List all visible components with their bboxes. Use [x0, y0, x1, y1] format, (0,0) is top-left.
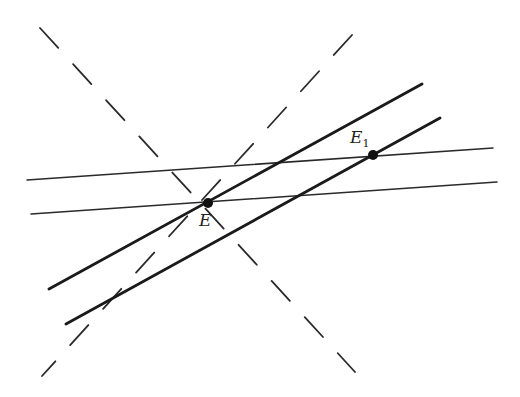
dashed-line-ascending: [42, 35, 352, 376]
point-e1: [368, 150, 378, 160]
thin-line-upper: [27, 148, 493, 180]
label-e-text: E: [199, 210, 211, 230]
point-e: [203, 198, 213, 208]
thick-line-upper: [49, 84, 422, 289]
thick-line-lower: [66, 118, 440, 324]
label-e1-subscript: 1: [362, 137, 369, 150]
label-e1: E1: [350, 129, 369, 149]
label-e1-text: E: [350, 127, 362, 147]
thin-line-lower: [31, 182, 497, 214]
label-e: E: [199, 212, 211, 229]
dashed-line-descending: [40, 28, 355, 372]
geometry-diagram: [0, 0, 520, 397]
